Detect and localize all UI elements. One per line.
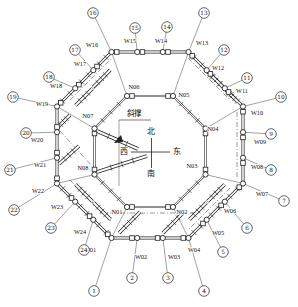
inner-point-square-N05 — [166, 94, 171, 99]
point-label-W07: W07 — [256, 190, 268, 197]
point-label-W17: W17 — [74, 60, 86, 67]
point-label-W05: W05 — [212, 229, 224, 236]
wall-point-square-W16 — [114, 50, 119, 55]
wall-point-marker-W10 — [240, 104, 245, 109]
point-label-N07: N07 — [83, 112, 94, 119]
wall-point-square-W21 — [55, 150, 60, 155]
wall-point-square-W22 — [55, 176, 60, 181]
index-number-8: 8 — [269, 167, 273, 173]
wall-point-marker-W02 — [135, 235, 140, 240]
wall-point-marker-W04 — [186, 235, 191, 240]
point-label-W19: W19 — [36, 100, 48, 107]
point-label-W21: W21 — [34, 161, 46, 168]
index-number-1: 1 — [92, 288, 96, 294]
index-number-13: 13 — [200, 10, 208, 16]
wall-point-square-W15 — [140, 50, 145, 55]
wall-point-square-W14 — [166, 50, 171, 55]
compass-east-label: 东 — [173, 146, 181, 156]
point-label-N08: N08 — [78, 164, 89, 171]
point-label-W08: W08 — [251, 163, 263, 170]
wall-point-marker-W12 — [204, 68, 209, 73]
wall-point-square-W02 — [130, 236, 135, 241]
index-number-23: 23 — [47, 225, 55, 231]
compass-north-label: 北 — [147, 127, 155, 136]
wall-point-square-W10 — [241, 109, 246, 114]
wall-point-marker-W05 — [204, 217, 209, 222]
wall-point-marker-W22 — [54, 181, 59, 186]
point-label-N05: N05 — [179, 91, 190, 98]
index-number-5: 5 — [221, 249, 225, 255]
point-label-W18: W18 — [50, 82, 62, 89]
index-number-7: 7 — [282, 198, 286, 204]
index-number-14: 14 — [163, 24, 171, 30]
wall-point-marker-W21 — [54, 155, 59, 160]
index-number-3: 3 — [166, 275, 170, 281]
wall-point-marker-W20 — [54, 130, 59, 135]
wall-point-square-W03 — [155, 236, 160, 241]
point-label-N02: N02 — [177, 208, 188, 215]
index-number-11: 11 — [243, 75, 250, 81]
wall-point-square-W09 — [241, 135, 246, 140]
point-label-W06: W06 — [224, 207, 236, 214]
inner-point-marker-N05 — [170, 93, 175, 98]
point-label-W02: W02 — [135, 253, 147, 260]
point-label-N03: N03 — [187, 162, 198, 169]
point-label-W12: W12 — [212, 64, 224, 71]
inner-point-square-N07 — [92, 131, 97, 136]
index-number-9: 9 — [269, 131, 273, 137]
wall-point-marker-W18 — [73, 86, 78, 91]
point-label-W10: W10 — [251, 109, 263, 116]
point-label-W15: W15 — [124, 37, 136, 44]
wall-point-marker-W16 — [109, 49, 114, 54]
point-label-W20: W20 — [31, 136, 43, 143]
wall-point-marker-W08 — [240, 155, 245, 160]
point-label-W09: W09 — [254, 138, 266, 145]
point-label-N06: N06 — [129, 83, 140, 90]
index-number-4: 4 — [202, 288, 206, 294]
index-number-17: 17 — [71, 47, 79, 53]
wall-point-square-W20 — [55, 125, 60, 130]
index-number-16: 16 — [89, 10, 97, 16]
point-label-W23: W23 — [51, 203, 63, 210]
index-number-24: 24 — [80, 247, 88, 253]
point-label-W16: W16 — [86, 41, 98, 48]
inner-point-square-N08 — [92, 167, 97, 172]
inner-point-square-N03 — [203, 167, 208, 172]
point-label-W04: W04 — [188, 246, 201, 253]
inner-point-marker-N06 — [124, 93, 129, 98]
compass-west-label: 西 — [120, 147, 128, 156]
inner-point-square-N06 — [130, 94, 135, 99]
point-label-W11: W11 — [236, 87, 248, 94]
wall-point-marker-W17 — [91, 68, 96, 73]
point-label-W24: W24 — [74, 228, 87, 235]
index-number-21: 21 — [6, 167, 13, 173]
point-label-W03: W03 — [168, 253, 180, 260]
index-number-6: 6 — [245, 225, 249, 231]
wall-point-square-W08 — [241, 161, 246, 166]
index-number-10: 10 — [277, 94, 285, 100]
drawing-canvas: 北南西东斜撑W01W02W03W04W05W06W07W08W09W10W11W… — [0, 0, 298, 307]
wall-point-marker-W13 — [186, 49, 191, 54]
index-number-15: 15 — [131, 25, 139, 31]
octagon-monitoring-diagram: 北南西东斜撑W01W02W03W04W05W06W07W08W09W10W11W… — [0, 0, 298, 307]
inner-point-square-N01 — [130, 205, 135, 210]
inner-point-marker-N07 — [92, 126, 97, 131]
inner-point-marker-N01 — [124, 204, 129, 209]
compass-south-label: 南 — [147, 168, 155, 178]
point-label-W22: W22 — [32, 187, 44, 194]
index-number-20: 20 — [22, 130, 30, 136]
wall-point-marker-W23 — [73, 199, 78, 204]
index-number-12: 12 — [220, 47, 228, 53]
index-number-18: 18 — [45, 74, 53, 80]
wall-point-marker-W24 — [91, 217, 96, 222]
index-number-2: 2 — [130, 275, 134, 281]
brace-callout-label: 斜撑 — [127, 108, 142, 118]
paper-background — [0, 0, 298, 307]
point-label-W13: W13 — [196, 39, 208, 46]
wall-point-marker-W01 — [109, 235, 114, 240]
wall-point-marker-W06 — [222, 199, 227, 204]
inner-point-square-N02 — [166, 205, 171, 210]
wall-point-marker-W15 — [135, 49, 140, 54]
wall-point-square-W04 — [181, 236, 186, 241]
wall-point-marker-W09 — [240, 130, 245, 135]
